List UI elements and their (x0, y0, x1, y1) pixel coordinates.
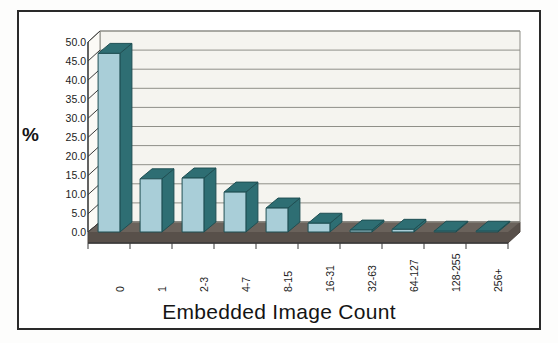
y-tick-label: 45.0 (52, 56, 86, 66)
y-tick-label: 40.0 (52, 75, 86, 85)
x-tick-label: 64-127 (408, 259, 420, 292)
y-tick-label: 15.0 (52, 170, 86, 180)
y-axis-title: % (22, 124, 39, 146)
y-tick-label: 25.0 (52, 132, 86, 142)
bar (140, 169, 174, 232)
plot-area: 50.045.040.035.030.025.020.015.010.05.00… (0, 0, 558, 343)
bar (182, 168, 216, 232)
x-tick-label: 4-7 (240, 277, 252, 292)
x-axis-title: Embedded Image Count (0, 300, 558, 324)
y-tick-label: 0.0 (52, 227, 86, 237)
y-tick-label: 10.0 (52, 189, 86, 199)
y-tick-labels: 50.045.040.035.030.025.020.015.010.05.00… (52, 0, 86, 343)
x-tick-label: 16-31 (324, 265, 336, 292)
bar (98, 43, 132, 232)
x-tick-label: 0 (114, 286, 126, 292)
y-tick-label: 5.0 (52, 208, 86, 218)
x-tick-label: 8-15 (282, 271, 294, 292)
y-tick-label: 50.0 (52, 37, 86, 47)
x-tick-label: 32-63 (366, 265, 378, 292)
y-tick-label: 20.0 (52, 151, 86, 161)
y-tick-label: 35.0 (52, 94, 86, 104)
chart-figure: 50.045.040.035.030.025.020.015.010.05.00… (0, 0, 558, 343)
bar (224, 182, 258, 232)
x-axis-ticks (88, 243, 508, 249)
x-tick-label: 1 (156, 286, 168, 292)
y-tick-label: 30.0 (52, 113, 86, 123)
x-tick-label: 2-3 (198, 277, 210, 292)
x-tick-label: 128-255 (450, 253, 462, 292)
x-tick-label: 256+ (492, 268, 504, 292)
